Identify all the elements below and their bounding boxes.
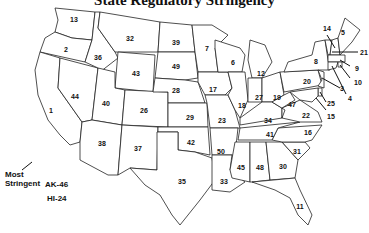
label-WA: 13 xyxy=(70,16,78,23)
state-ME xyxy=(338,18,360,55)
label-DE: 25 xyxy=(327,100,335,107)
label-NH: 21 xyxy=(360,49,368,56)
label-MD: 15 xyxy=(327,113,335,120)
label-MI: 12 xyxy=(257,70,265,77)
label-AZ: 38 xyxy=(98,140,106,147)
state-ND xyxy=(158,22,195,52)
label-IN: 27 xyxy=(255,94,263,101)
label-NE: 28 xyxy=(172,87,180,94)
label-MS: 45 xyxy=(237,164,245,171)
label-TX: 35 xyxy=(178,178,186,185)
label-KY: 34 xyxy=(264,117,272,124)
label-VA: 22 xyxy=(302,112,310,119)
label-SC: 31 xyxy=(293,148,301,155)
label-WV: 47 xyxy=(288,101,296,108)
label-FL: 11 xyxy=(296,203,304,210)
label-LA: 33 xyxy=(220,178,228,185)
label-MA: 9 xyxy=(355,65,359,72)
label-MO: 23 xyxy=(218,117,226,124)
label-AL: 48 xyxy=(256,164,264,171)
label-TN: 41 xyxy=(266,131,274,138)
label-VT: 14 xyxy=(323,25,331,32)
label-NC: 16 xyxy=(304,129,312,136)
label-NY: 8 xyxy=(314,58,318,65)
label-NJ: 3 xyxy=(340,85,344,92)
leader-DE xyxy=(320,92,326,102)
label-MT: 32 xyxy=(126,35,134,42)
label-GA: 30 xyxy=(279,163,287,170)
most-stringent-line1: Most xyxy=(5,170,40,179)
label-IA: 17 xyxy=(209,86,217,93)
label-NM: 37 xyxy=(134,145,142,152)
label-CT: 4 xyxy=(348,95,352,102)
label-IL: 18 xyxy=(238,102,246,109)
alaska-rank: AK-46 xyxy=(45,180,68,189)
label-SD: 49 xyxy=(172,63,180,70)
leader-RI xyxy=(340,65,350,78)
label-ME: 5 xyxy=(341,29,345,36)
label-CO: 26 xyxy=(140,107,148,114)
label-PA: 20 xyxy=(303,78,311,85)
label-WI: 6 xyxy=(231,59,235,66)
hawaii-rank: HI-24 xyxy=(47,194,67,203)
label-UT: 40 xyxy=(102,100,110,107)
state-NY xyxy=(284,40,330,72)
most-stringent-line2: Stringent xyxy=(5,179,40,188)
label-WY: 43 xyxy=(132,70,140,77)
leader-most-stringent xyxy=(22,162,32,170)
state-WI xyxy=(215,40,245,72)
label-OR: 2 xyxy=(64,46,68,53)
label-ID: 36 xyxy=(94,54,102,61)
label-OK: 42 xyxy=(187,139,195,146)
label-ND: 39 xyxy=(172,39,180,46)
state-AZ xyxy=(80,120,122,175)
label-OH: 19 xyxy=(273,94,281,101)
label-AR: 50 xyxy=(217,148,225,155)
label-RI: 10 xyxy=(354,79,362,86)
label-MN: 7 xyxy=(205,45,209,52)
label-CA: 1 xyxy=(49,107,53,114)
most-stringent-note: Most Stringent xyxy=(5,170,40,188)
leader-NJ xyxy=(322,78,340,88)
label-NV: 44 xyxy=(71,93,79,100)
state-FL xyxy=(252,178,312,225)
label-KS: 29 xyxy=(186,114,194,121)
